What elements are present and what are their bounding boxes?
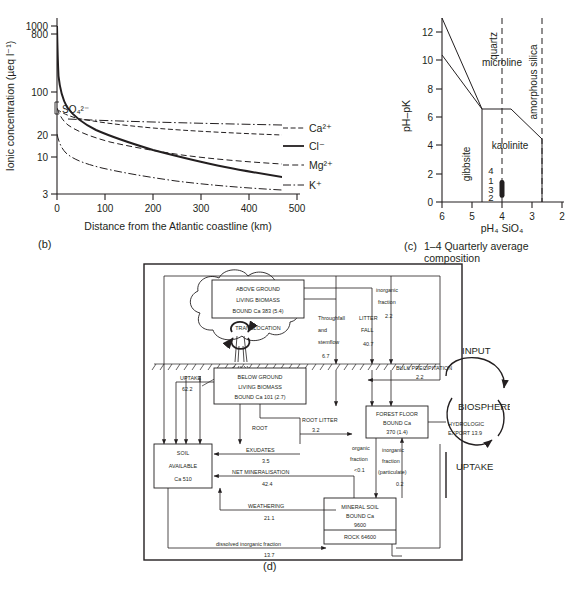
panel-d-value-throughfall: 6.7 (322, 353, 330, 359)
panel-d-ag-line1: ABOVE GROUND (236, 286, 280, 292)
panel-d-sa-line3: Ca 510 (174, 476, 191, 482)
panel-d-bg-line2: LIVING BIOMASS (238, 384, 282, 390)
panel-c-sample-marker-cluster (500, 180, 505, 198)
panel-b-xtick-200: 200 (145, 203, 162, 214)
panel-b-series-mg (57, 108, 282, 164)
panel-d-ag-line2: LIVING BIOMASS (236, 297, 280, 303)
panel-b-ytick-800: 800 (31, 29, 48, 40)
panel-b-caption: (b) (38, 238, 51, 250)
panel-c-x-tick-labels: 6 5 4 3 2 (439, 211, 565, 222)
panel-b-ytick-20: 20 (37, 130, 49, 141)
panel-d-label-inorg2-l2: fraction (382, 458, 400, 464)
panel-c-xtick-2: 2 (559, 211, 565, 222)
panel-b-x-ticks (57, 194, 297, 200)
panel-d-label-inorganic-l1: inorganic (376, 287, 398, 293)
panel-b-legend-label-ca: Ca²⁺ (309, 122, 332, 134)
panel-d-label-hydrologic-l1: HYDROLOGIC (448, 421, 484, 427)
panel-d-value-litter: 40.7 (363, 341, 374, 347)
panel-d-ff-line2: BOUND Ca (383, 420, 411, 426)
panel-b-legend-label-cl: Cl⁻ (309, 140, 325, 152)
panel-d-value-weathering: 21.1 (264, 515, 275, 521)
panel-d-label-inorg2-l3: (particulate) (378, 469, 407, 475)
panel-b-y-tick-labels: 1000 800 100 20 10 3 (26, 21, 49, 200)
panel-b-legend-label-mg: Mg²⁺ (309, 159, 333, 171)
panel-d-ag-line3: BOUND Ca 383 (5.4) (233, 308, 284, 314)
panel-c-xtick-4: 4 (499, 211, 505, 222)
panel-c-x-axis-label: pH₄ SiO₄ (481, 222, 523, 234)
panel-d-label-litter-l1: LITTER (359, 315, 378, 321)
panel-d-label-rock: ROCK 64600 (344, 534, 376, 540)
panel-d-calcium-cycle-diagram: ABOVE GROUND LIVING BIOMASS BOUND Ca 383… (140, 258, 510, 578)
panel-b-x-tick-labels: 0 100 200 300 400 500 (54, 203, 306, 214)
panel-d-value-organic: <0.1 (354, 467, 365, 473)
panel-b-annotation-so4: SO₄²⁻ (62, 104, 89, 115)
panel-c-field-label-amorphous-silica: amorphous silica (528, 44, 539, 119)
panel-c-ytick-0: 0 (427, 197, 433, 208)
panel-d-label-translocation: TRANSLOCATION (235, 325, 281, 331)
panel-d-label-weathering: WEATHERING (248, 503, 284, 509)
panel-d-bg-line3: BOUND Ca 101 (2.7) (235, 394, 286, 400)
panel-c-field-label-kaolinite: kaolinite (492, 140, 529, 151)
panel-c-y-axis-label: pH–pK (400, 100, 412, 132)
panel-b-ytick-100: 100 (31, 87, 48, 98)
panel-d-label-throughfall-l1: Throughfall (318, 315, 345, 321)
panel-b-xtick-400: 400 (241, 203, 258, 214)
panel-d-value-net-mineralisation: 42.4 (262, 481, 273, 487)
panel-d-caption: (d) (263, 560, 276, 572)
panel-c-ytick-8: 8 (427, 84, 433, 95)
panel-c-xtick-5: 5 (469, 211, 475, 222)
panel-c-xtick-3: 3 (529, 211, 535, 222)
panel-b-ytick-10: 10 (37, 152, 49, 163)
panel-d-label-dissolved: dissolved inorganic fraction (216, 541, 281, 547)
panel-d-value-root-litter: 3.2 (312, 427, 320, 433)
panel-d-value-inorg2: 0.2 (396, 481, 404, 487)
panel-d-ms-line2: BOUND Ca (346, 513, 374, 519)
panel-d-label-input: INPUT (462, 345, 491, 356)
panel-d-label-organic-l1: organic (352, 445, 370, 451)
panel-c-sample-labels: 4 1 3 2 (488, 165, 493, 203)
panel-c-ytick-12: 12 (422, 27, 434, 38)
panel-b-ionic-concentration-chart: Ionic concentration (µeq l⁻¹) 1000 800 1… (0, 4, 382, 236)
panel-d-value-uptake: 62.2 (182, 386, 193, 392)
panel-c-field-label-gibbsite: gibbsite (461, 146, 472, 181)
panel-c-ytick-10: 10 (422, 55, 434, 66)
panel-c-mineral-stability-diagram: pH–pK 12 10 8 6 4 2 0 (398, 4, 572, 234)
panel-d-value-inorganic: 2.2 (385, 313, 393, 319)
panel-b-x-axis-label: Distance from the Atlantic coastline (km… (84, 220, 271, 232)
panel-c-xtick-6: 6 (439, 211, 445, 222)
panel-d-value-exudates: 3.5 (262, 458, 270, 464)
panel-d-ff-line1: FOREST FLOOR (376, 411, 418, 417)
panel-c-y-ticks (436, 32, 442, 202)
panel-c-y-tick-labels: 12 10 8 6 4 2 0 (422, 27, 434, 208)
panel-b-svg: Ionic concentration (µeq l⁻¹) 1000 800 1… (0, 4, 382, 236)
panel-c-caption: (c) (404, 240, 417, 252)
panel-d-sa-line1: SOIL (177, 450, 189, 456)
panel-d-bg-line1: BELOW GROUND (238, 374, 283, 380)
panel-d-label-throughfall-l3: stemflow (318, 339, 339, 345)
panel-c-ytick-6: 6 (427, 112, 433, 123)
panel-b-xtick-500: 500 (289, 203, 306, 214)
panel-d-label-net-mineralisation: NET MINERALISATION (232, 469, 289, 475)
panel-b-y-ticks (51, 26, 57, 194)
panel-d-label-bulk-precipitation: BULK PRECIPITATION (396, 365, 452, 371)
panel-c-svg: pH–pK 12 10 8 6 4 2 0 (398, 4, 572, 234)
panel-b-annotation-so4-group: SO₄²⁻ (55, 102, 89, 115)
panel-b-xtick-100: 100 (97, 203, 114, 214)
panel-c-sample-label-2: 2 (488, 192, 493, 203)
panel-c-ytick-2: 2 (427, 169, 433, 180)
panel-c-ytick-4: 4 (427, 140, 433, 151)
panel-d-label-throughfall-l2: and (318, 327, 327, 333)
panel-b-xtick-300: 300 (193, 203, 210, 214)
panel-d-sa-line2: AVAILABLE (169, 463, 198, 469)
panel-d-ms-line1: MINERAL SOIL (341, 504, 379, 510)
panel-d-value-bulk-precipitation: 2.2 (416, 374, 424, 380)
panel-d-biosphere-arc-top (446, 358, 504, 388)
panel-b-series-cl (57, 26, 300, 180)
panel-d-ff-line3: 370 (1.4) (386, 429, 408, 435)
panel-d-box-above-ground-text: ABOVE GROUND LIVING BIOMASS BOUND Ca 383… (233, 286, 284, 314)
panel-d-label-organic-l2: fraction (350, 456, 368, 462)
panel-b-y-axis-label: Ionic concentration (µeq l⁻¹) (4, 41, 16, 172)
panel-b-xtick-0: 0 (54, 203, 60, 214)
panel-d-label-uptake-flow: UPTAKE (180, 375, 202, 381)
panel-d-label-litter-l2: FALL (361, 327, 374, 333)
